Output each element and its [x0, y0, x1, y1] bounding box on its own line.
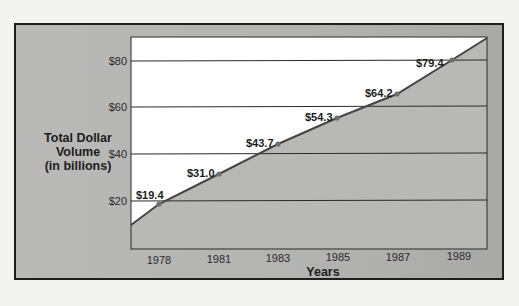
data-label-1985: $54.3 — [305, 111, 333, 123]
marker-1983 — [275, 141, 280, 146]
y-tick-labels: $80 $60 $40 $20 — [109, 55, 127, 207]
y-tick-40: $40 — [109, 148, 127, 160]
y-tick-60: $60 — [109, 101, 127, 113]
data-label-1978: $19.4 — [136, 189, 164, 201]
data-label-1989: $79.4 — [416, 57, 444, 69]
marker-1985 — [334, 115, 339, 120]
data-label-1983: $43.7 — [246, 137, 274, 149]
marker-1981 — [216, 171, 221, 176]
x-tick-1981: 1981 — [207, 253, 231, 265]
chart-svg: $19.4 $31.0 $43.7 $54.3 $64.2 $79.4 $80 … — [0, 0, 519, 306]
marker-1987 — [394, 91, 399, 96]
data-label-1987: $64.2 — [365, 87, 393, 99]
marker-1989 — [449, 57, 454, 62]
x-tick-1983: 1983 — [266, 252, 290, 264]
y-tick-80: $80 — [109, 55, 127, 67]
x-tick-1985: 1985 — [326, 251, 350, 263]
x-tick-1987: 1987 — [386, 251, 410, 263]
x-axis-title: Years — [306, 265, 339, 279]
data-label-1981: $31.0 — [187, 167, 215, 179]
x-tick-1978: 1978 — [147, 254, 171, 266]
x-tick-labels: 1978 1981 1983 1985 1987 1989 — [147, 250, 471, 266]
marker-1978 — [156, 201, 161, 206]
y-tick-20: $20 — [109, 195, 127, 207]
x-tick-1989: 1989 — [447, 250, 471, 262]
